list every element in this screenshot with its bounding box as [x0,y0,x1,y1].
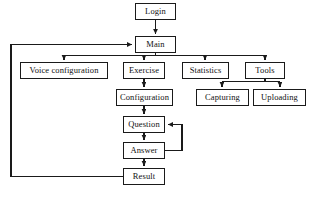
node-tools[interactable]: Tools [245,62,285,79]
node-voice-configuration-label: Voice configuration [29,66,98,75]
node-voice-configuration[interactable]: Voice configuration [20,62,108,79]
edge-answer-to-question-loop [165,125,182,151]
node-statistics-label: Statistics [190,66,222,75]
node-exercise-label: Exercise [129,66,159,75]
node-uploading-label: Uploading [261,93,298,102]
node-tools-label: Tools [255,66,274,75]
node-answer[interactable]: Answer [123,142,165,159]
node-capturing[interactable]: Capturing [196,89,249,106]
node-result[interactable]: Result [123,168,165,185]
node-uploading[interactable]: Uploading [253,89,306,106]
node-capturing-label: Capturing [205,93,240,102]
node-configuration[interactable]: Configuration [116,89,173,106]
node-main-label: Main [146,40,164,49]
node-result-label: Result [133,172,155,181]
node-login-label: Login [145,7,166,16]
node-answer-label: Answer [130,146,157,155]
node-exercise[interactable]: Exercise [123,62,165,79]
node-statistics[interactable]: Statistics [182,62,229,79]
node-login[interactable]: Login [135,3,176,20]
flowchart-diagram: Login Main Voice configuration Exercise … [0,0,316,201]
node-question-label: Question [128,120,160,129]
node-configuration-label: Configuration [120,93,169,102]
node-main[interactable]: Main [135,36,176,53]
node-question[interactable]: Question [123,116,165,133]
